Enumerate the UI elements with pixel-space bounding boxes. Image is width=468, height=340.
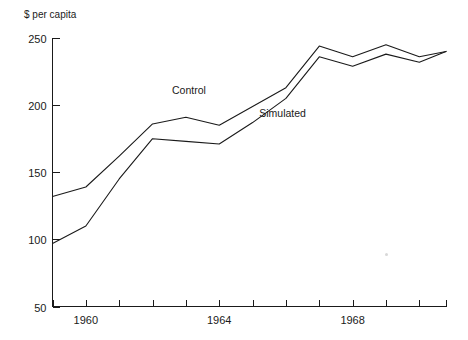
y-tick-label: 150 bbox=[28, 167, 46, 179]
y-axis-title: $ per capita bbox=[24, 9, 77, 20]
y-tick-label: 250 bbox=[28, 33, 46, 45]
series-annotation-simulated: Simulated bbox=[259, 107, 306, 119]
x-axis-tick-labels: 196019641968 bbox=[74, 314, 365, 326]
y-axis-tick-labels: 50100150200250 bbox=[28, 33, 46, 314]
y-tick-label: 100 bbox=[28, 234, 46, 246]
x-axis-ticks bbox=[54, 300, 447, 307]
x-tick-label: 1968 bbox=[340, 314, 364, 326]
series-annotation-control: Control bbox=[172, 84, 206, 96]
x-tick-label: 1964 bbox=[207, 314, 231, 326]
series-line-control bbox=[53, 45, 447, 197]
line-chart-svg: 50100150200250 196019641968 $ per capita… bbox=[0, 0, 468, 340]
series-line-simulated bbox=[53, 51, 447, 243]
chart-container: 50100150200250 196019641968 $ per capita… bbox=[0, 0, 468, 340]
y-axis-ticks bbox=[53, 39, 60, 308]
y-tick-label: 50 bbox=[34, 302, 46, 314]
x-tick-label: 1960 bbox=[74, 314, 98, 326]
scan-speck bbox=[385, 253, 388, 256]
y-tick-label: 200 bbox=[28, 100, 46, 112]
